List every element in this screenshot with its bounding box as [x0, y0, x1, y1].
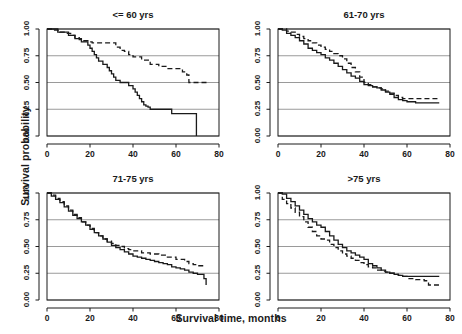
- y-tick-label: 0.75: [253, 206, 262, 232]
- y-tick-label: 0.25: [253, 260, 262, 286]
- survival-curve-dashed: [278, 193, 439, 285]
- survival-figure: Survival probability Survival time, mont…: [0, 0, 462, 334]
- x-tick-label: 80: [440, 313, 460, 323]
- panel-plot-area: [0, 0, 462, 334]
- x-tick-label: 0: [268, 313, 288, 323]
- y-tick-label: 0.00: [253, 287, 262, 313]
- y-tick-label: 0.50: [253, 233, 262, 259]
- x-tick-label: 60: [397, 313, 417, 323]
- panel-age-gt-75: >75 yrs0204060800.000.250.500.751.00: [0, 0, 462, 334]
- survival-curve-solid: [278, 193, 439, 276]
- x-tick-label: 40: [354, 313, 374, 323]
- y-tick-label: 1.00: [253, 180, 262, 206]
- x-tick-label: 20: [311, 313, 331, 323]
